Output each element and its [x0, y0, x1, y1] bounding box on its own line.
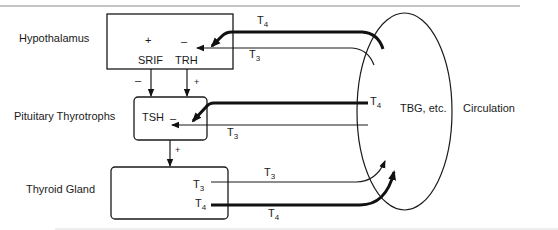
pituitary-t3-label: T3	[227, 126, 239, 141]
tsh-label: TSH	[142, 111, 164, 123]
tsh-stimulate-sign: +	[175, 145, 180, 155]
hypothalamus-plus-sign: +	[145, 34, 151, 46]
srif-label: SRIF	[138, 54, 163, 66]
hypothalamus-label: Hypothalamus	[19, 32, 90, 44]
hypothalamus-t4-label: T4	[257, 14, 269, 29]
thyroid-box	[111, 167, 228, 219]
trh-stimulate-sign: +	[194, 77, 199, 87]
srif-inhibit-sign: –	[135, 74, 142, 86]
thyroid-label: Thyroid Gland	[26, 183, 95, 195]
hypothalamus-box	[107, 14, 233, 69]
hypothalamus-t4-feedback	[212, 32, 383, 49]
pituitary-t4-label: T4	[370, 95, 382, 110]
output-t3-label: T3	[264, 166, 276, 181]
pituitary-minus-sign: –	[170, 112, 177, 124]
thyroid-axis-diagram: Hypothalamus Pituitary Thyrotrophs Thyro…	[0, 0, 558, 230]
trh-label: TRH	[175, 54, 198, 66]
pituitary-label: Pituitary Thyrotrophs	[14, 110, 116, 122]
thyroid-t3-output	[211, 161, 385, 182]
hypothalamus-t3-label: T3	[249, 48, 261, 63]
output-t4-label: T4	[268, 207, 280, 222]
hypothalamus-minus-sign: –	[181, 35, 188, 47]
tbg-label: TBG, etc.	[400, 102, 446, 114]
circulation-label: Circulation	[463, 102, 515, 114]
pituitary-t4-feedback	[193, 103, 368, 121]
thyroid-t4-output	[211, 172, 394, 205]
